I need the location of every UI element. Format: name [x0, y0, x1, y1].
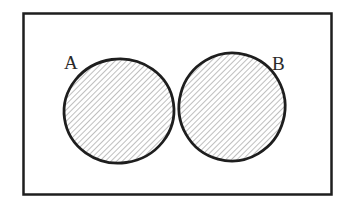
venn-diagram: A B — [0, 0, 343, 211]
shaded-region — [0, 0, 343, 211]
set-b-label: B — [272, 53, 285, 74]
set-a-label: A — [64, 52, 78, 73]
